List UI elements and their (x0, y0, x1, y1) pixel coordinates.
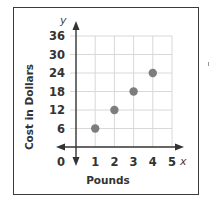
data-point (110, 106, 118, 114)
y-tick-label: 6 (57, 122, 65, 136)
x-tick-label: 1 (91, 155, 99, 169)
y-tick-label: 12 (49, 103, 65, 117)
x-tick-label: 3 (130, 155, 138, 169)
y-tick-label: 24 (49, 66, 65, 80)
y-variable-label: y (59, 14, 67, 27)
x-tick-label: 5 (168, 155, 176, 169)
x-axis-title: Pounds (86, 174, 130, 186)
x-axis-arrow-left-icon (56, 144, 65, 151)
x-variable-label: x (179, 155, 187, 168)
x-axis (56, 144, 184, 151)
y-tick-label: 36 (49, 29, 65, 43)
x-tick-label: 2 (110, 155, 118, 169)
y-axis (73, 21, 80, 166)
y-axis-title: Cost in Dollars (23, 64, 35, 150)
x-tick-label: 4 (149, 155, 157, 169)
y-axis-arrow-down-icon (73, 157, 80, 166)
scatter-chart: 61218243036 012345 y x Pounds Cost in Do… (0, 0, 212, 207)
data-point (129, 87, 137, 95)
y-tick-label: 18 (49, 85, 65, 99)
data-point (91, 124, 99, 132)
x-tick-label: 0 (57, 155, 65, 169)
grid (70, 36, 172, 147)
data-points (91, 69, 157, 133)
y-tick-label: 30 (49, 48, 65, 62)
x-axis-arrow-right-icon (175, 144, 184, 151)
y-tick-labels: 61218243036 (49, 29, 65, 136)
y-axis-arrow-up-icon (73, 21, 80, 30)
data-point (149, 69, 157, 77)
